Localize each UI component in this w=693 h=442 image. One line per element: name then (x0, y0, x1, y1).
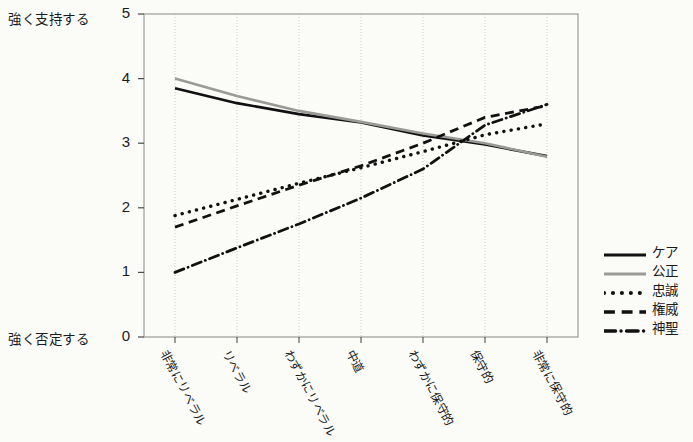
y-axis-tick-label: 2 (108, 198, 130, 215)
chart-legend: ケア公正忠誠権威神聖 (604, 243, 690, 338)
series-line-公正 (175, 79, 547, 157)
legend-item: 忠誠 (604, 281, 690, 300)
x-axis-ticks (175, 337, 547, 343)
y-axis-ticks (138, 14, 144, 337)
y-axis-tick-label: 0 (108, 327, 130, 344)
y-axis-bottom-label: 強く否定する (8, 328, 89, 348)
gridlines (175, 14, 547, 337)
y-axis-top-label: 強く支持する (8, 8, 89, 28)
y-axis-tick-label: 4 (108, 69, 130, 86)
series-line-権威 (175, 106, 547, 227)
y-axis-tick-label: 5 (108, 4, 130, 21)
legend-item: 神聖 (604, 319, 690, 338)
legend-swatch-忠誠 (604, 285, 646, 297)
legend-label: 公正 (652, 265, 678, 279)
legend-item: ケア (604, 243, 690, 262)
legend-swatch-ケア (604, 247, 646, 259)
y-axis-tick-label: 3 (108, 133, 130, 150)
legend-item: 権威 (604, 300, 690, 319)
legend-swatch-神聖 (604, 323, 646, 335)
legend-label: ケア (652, 246, 678, 260)
legend-swatch-権威 (604, 304, 646, 316)
legend-item: 公正 (604, 262, 690, 281)
line-chart-canvas (0, 0, 693, 442)
legend-label: 神聖 (652, 322, 678, 336)
legend-swatch-公正 (604, 266, 646, 278)
legend-label: 忠誠 (652, 284, 678, 298)
y-axis-tick-label: 1 (108, 262, 130, 279)
legend-label: 権威 (652, 303, 678, 317)
chart-figure: 強く支持する 強く否定する 012345 非常にリベラルリベラルわずかにリベラル… (0, 0, 693, 442)
